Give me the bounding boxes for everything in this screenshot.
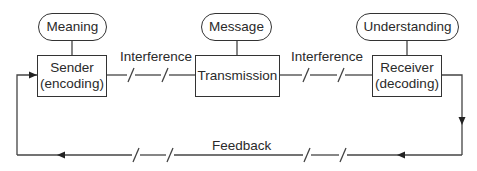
meaning-label: Meaning — [47, 19, 99, 35]
arrow-down-icon — [459, 117, 466, 125]
meaning-pill: Meaning — [38, 13, 107, 41]
receiver-sublabel: (decoding) — [375, 76, 439, 92]
understanding-label: Understanding — [364, 19, 452, 35]
arrow-right-icon — [29, 72, 37, 79]
arrow-left-icon — [57, 152, 65, 159]
transmission-box: Transmission — [195, 55, 280, 97]
interference-label-1: Interference — [120, 49, 192, 64]
interference-label-2: Interference — [291, 49, 363, 64]
receiver-box: Receiver (decoding) — [372, 55, 442, 97]
sender-label: Sender — [50, 60, 94, 76]
message-label: Message — [209, 19, 264, 35]
transmission-label: Transmission — [198, 68, 278, 84]
sender-sublabel: (encoding) — [40, 76, 104, 92]
message-pill: Message — [201, 13, 272, 41]
arrow-left-icon — [397, 152, 405, 159]
feedback-label: Feedback — [212, 138, 271, 153]
receiver-label: Receiver — [380, 60, 433, 76]
sender-box: Sender (encoding) — [37, 55, 107, 97]
understanding-pill: Understanding — [356, 13, 459, 41]
